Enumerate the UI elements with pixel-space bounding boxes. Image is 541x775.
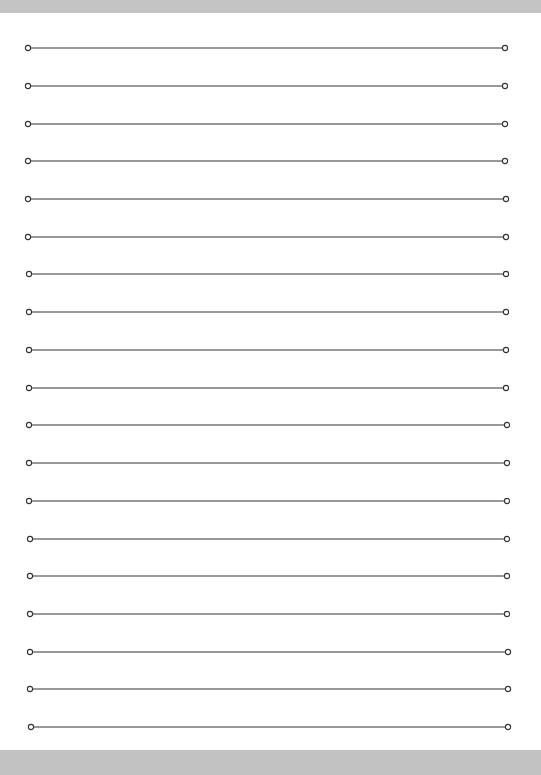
- ruled-line: [25, 196, 508, 201]
- left-circle-icon: [26, 460, 31, 465]
- ruled-line: [26, 309, 508, 314]
- left-circle-icon: [27, 611, 32, 616]
- right-circle-icon: [504, 460, 509, 465]
- left-circle-icon: [25, 121, 30, 126]
- ruled-line: [25, 121, 507, 126]
- ruled-line: [26, 385, 508, 390]
- left-circle-icon: [25, 45, 30, 50]
- right-circle-icon: [505, 686, 510, 691]
- left-circle-icon: [25, 196, 30, 201]
- left-circle-icon: [27, 536, 32, 541]
- right-circle-icon: [504, 536, 509, 541]
- left-circle-icon: [28, 724, 33, 729]
- left-circle-icon: [27, 686, 32, 691]
- right-circle-icon: [505, 724, 510, 729]
- right-circle-icon: [502, 158, 507, 163]
- left-circle-icon: [26, 271, 31, 276]
- right-circle-icon: [504, 498, 509, 503]
- right-circle-icon: [503, 271, 508, 276]
- left-circle-icon: [26, 347, 31, 352]
- ruled-line: [25, 83, 507, 88]
- left-circle-icon: [27, 649, 32, 654]
- right-circle-icon: [503, 385, 508, 390]
- right-circle-icon: [503, 234, 508, 239]
- right-circle-icon: [503, 196, 508, 201]
- ruled-lines: [0, 0, 541, 775]
- ruled-line: [26, 271, 508, 276]
- left-circle-icon: [25, 158, 30, 163]
- right-circle-icon: [505, 649, 510, 654]
- ruled-line: [27, 686, 510, 691]
- left-circle-icon: [25, 83, 30, 88]
- ruled-line: [27, 649, 510, 654]
- ruled-line: [27, 611, 509, 616]
- ruled-line: [27, 573, 509, 578]
- left-circle-icon: [25, 234, 30, 239]
- right-circle-icon: [502, 83, 507, 88]
- right-circle-icon: [503, 347, 508, 352]
- left-circle-icon: [26, 309, 31, 314]
- ruled-line: [25, 45, 507, 50]
- right-circle-icon: [504, 611, 509, 616]
- right-circle-icon: [503, 309, 508, 314]
- ruled-line: [26, 460, 509, 465]
- right-circle-icon: [504, 422, 509, 427]
- left-circle-icon: [26, 498, 31, 503]
- ruled-line: [26, 347, 508, 352]
- left-circle-icon: [26, 385, 31, 390]
- ruled-line: [26, 422, 509, 427]
- ruled-line: [25, 158, 507, 163]
- ruled-line: [25, 234, 508, 239]
- left-circle-icon: [27, 573, 32, 578]
- right-circle-icon: [504, 573, 509, 578]
- right-circle-icon: [502, 45, 507, 50]
- ruled-line: [26, 498, 509, 503]
- right-circle-icon: [502, 121, 507, 126]
- left-circle-icon: [26, 422, 31, 427]
- ruled-line: [28, 724, 510, 729]
- ruled-line: [27, 536, 509, 541]
